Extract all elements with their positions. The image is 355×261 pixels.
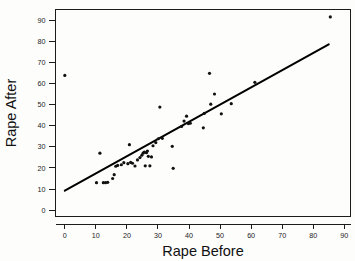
data-point xyxy=(253,81,256,84)
x-tick-label-0: 0 xyxy=(63,231,67,240)
data-point xyxy=(230,102,233,105)
x-tick-label-60: 60 xyxy=(247,231,255,240)
y-tick-label-40: 40 xyxy=(38,121,46,130)
data-points xyxy=(63,15,332,184)
y-tick-label-90: 90 xyxy=(38,16,46,25)
y-tick-label-10: 10 xyxy=(38,185,46,194)
y-tick-label-0: 0 xyxy=(42,206,46,215)
x-tick-label-30: 30 xyxy=(154,231,162,240)
y-tick-label-70: 70 xyxy=(38,58,46,67)
data-point xyxy=(120,163,123,166)
x-tick-label-80: 80 xyxy=(309,231,317,240)
data-point xyxy=(209,103,212,106)
data-point xyxy=(158,105,161,108)
y-tick-label-50: 50 xyxy=(38,100,46,109)
data-point xyxy=(189,122,192,125)
data-point xyxy=(150,155,153,158)
data-point xyxy=(113,173,116,176)
data-point xyxy=(106,181,109,184)
y-tick-label-60: 60 xyxy=(38,79,46,88)
x-tick-label-40: 40 xyxy=(185,231,193,240)
x-tick-label-20: 20 xyxy=(123,231,131,240)
x-axis-title: Rape Before xyxy=(162,243,243,259)
data-point xyxy=(131,162,134,165)
y-tick-label-30: 30 xyxy=(38,142,46,151)
plot-canvas: 01020304050607080900102030405060708090Ra… xyxy=(0,0,355,261)
data-point xyxy=(128,143,131,146)
data-point xyxy=(63,74,66,77)
data-point xyxy=(146,149,149,152)
data-point xyxy=(171,145,174,148)
data-point xyxy=(329,15,332,18)
data-point xyxy=(202,126,205,129)
data-point xyxy=(98,152,101,155)
data-point xyxy=(122,161,125,164)
data-point xyxy=(220,112,223,115)
data-point xyxy=(213,92,216,95)
data-point xyxy=(161,137,164,140)
y-axis-title-group: Rape After xyxy=(3,79,19,148)
data-point xyxy=(203,112,206,115)
data-point xyxy=(172,167,175,170)
data-point xyxy=(185,115,188,118)
data-point xyxy=(136,158,139,161)
x-tick-label-10: 10 xyxy=(92,231,100,240)
y-tick-label-20: 20 xyxy=(38,164,46,173)
regression-line xyxy=(65,44,329,190)
data-point xyxy=(154,141,157,144)
data-point xyxy=(144,164,147,167)
y-axis-title: Rape After xyxy=(3,79,19,148)
x-tick-label-70: 70 xyxy=(278,231,286,240)
x-axis: 0102030405060708090 xyxy=(56,224,351,240)
x-tick-label-50: 50 xyxy=(216,231,224,240)
data-point xyxy=(147,155,150,158)
x-tick-label-90: 90 xyxy=(340,231,348,240)
data-point xyxy=(157,137,160,140)
data-point xyxy=(116,164,119,167)
data-point xyxy=(95,181,98,184)
data-point xyxy=(180,125,183,128)
y-axis: 0102030405060708090 xyxy=(38,16,55,215)
data-point xyxy=(133,164,136,167)
data-point xyxy=(151,144,154,147)
data-point xyxy=(208,72,211,75)
data-point xyxy=(182,119,185,122)
y-tick-label-80: 80 xyxy=(38,37,46,46)
data-point xyxy=(111,177,114,180)
data-point xyxy=(148,164,151,167)
data-point xyxy=(126,162,129,165)
scatter-plot-figure: 01020304050607080900102030405060708090Ra… xyxy=(0,0,355,261)
